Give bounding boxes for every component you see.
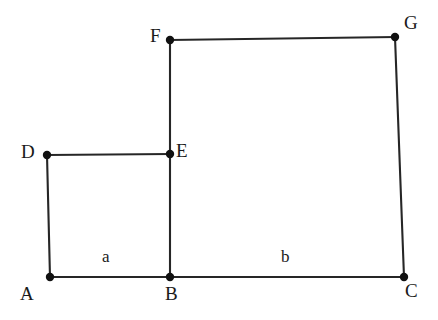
edge-a-d — [47, 155, 50, 277]
edge-g-c — [395, 37, 404, 277]
vertex-dot-a — [46, 273, 54, 281]
edge-d-e — [47, 154, 170, 155]
geometry-figure: ABCDEFG ab — [0, 0, 438, 320]
vertex-label-d: D — [21, 142, 35, 161]
vertex-label-b: B — [165, 284, 178, 303]
vertex-dot-d — [43, 151, 51, 159]
vertex-dot-e — [166, 150, 174, 158]
side-label-b: b — [281, 248, 290, 265]
vertex-label-a: A — [20, 284, 34, 303]
edges-group — [47, 37, 404, 277]
vertex-label-f: F — [150, 26, 161, 45]
vertex-dot-f — [166, 36, 174, 44]
vertex-label-e: E — [176, 141, 188, 160]
figure-canvas — [0, 0, 438, 320]
vertex-label-c: C — [405, 281, 418, 300]
vertex-dot-b — [166, 273, 174, 281]
side-label-a: a — [102, 248, 110, 265]
vertex-dots-group — [43, 33, 408, 281]
edge-f-g — [170, 37, 395, 40]
vertex-dot-g — [391, 33, 399, 41]
vertex-label-g: G — [404, 13, 418, 32]
